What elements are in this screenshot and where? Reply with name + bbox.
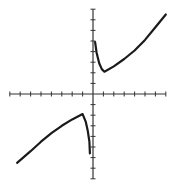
lower-branch-curve: [17, 114, 90, 163]
upper-branch-curve: [95, 15, 166, 72]
axes: [10, 9, 166, 179]
function-graph: [0, 0, 175, 188]
curves: [17, 15, 166, 163]
